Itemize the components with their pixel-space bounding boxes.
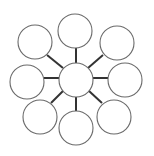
node-bottom-left (23, 100, 57, 134)
node-bottom-right-circle (97, 100, 131, 134)
bubble-map-diagram (0, 0, 154, 156)
node-top-right-circle (100, 26, 134, 60)
center-node-bubble (59, 63, 93, 97)
center-node (59, 63, 93, 97)
node-top-circle (58, 14, 92, 48)
node-right-circle (108, 63, 142, 97)
center-node-bubble-circle (59, 63, 93, 97)
node-left-circle (10, 65, 44, 99)
node-top (58, 14, 92, 48)
node-top-left-circle (18, 25, 52, 59)
node-bottom-right (97, 100, 131, 134)
node-top-left (18, 25, 52, 59)
node-left (10, 65, 44, 99)
node-bottom (59, 111, 93, 145)
node-bottom-circle (59, 111, 93, 145)
node-top-right (100, 26, 134, 60)
node-right (108, 63, 142, 97)
node-bottom-left-circle (23, 100, 57, 134)
